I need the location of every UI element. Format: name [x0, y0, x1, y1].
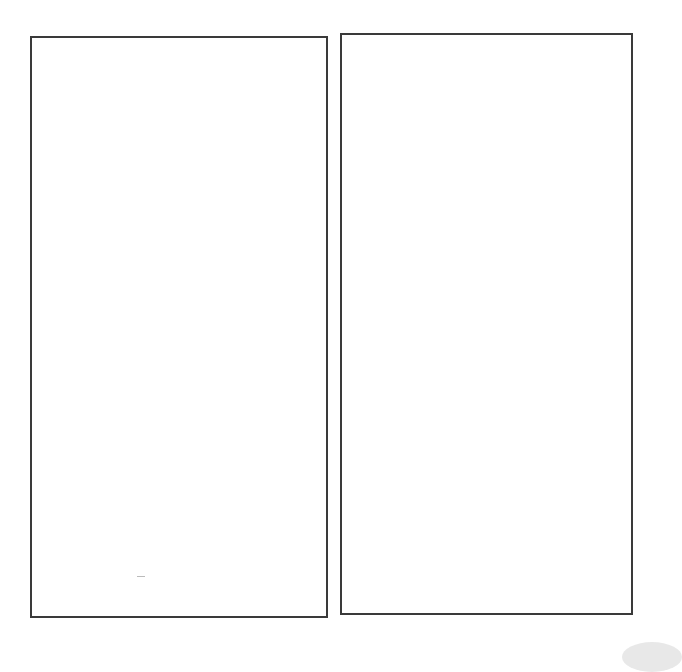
corner-partial-shape — [622, 642, 682, 672]
right-panel — [340, 33, 633, 615]
faint-dash-mark — [137, 576, 145, 577]
left-panel — [30, 36, 328, 618]
